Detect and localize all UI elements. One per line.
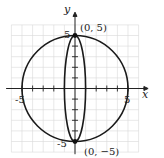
graph-plot: y x -5 5 5 -5 (0, 5) (0, −5) — [0, 0, 164, 158]
x-tick-label-neg5: -5 — [15, 94, 25, 105]
y-tick-label-5: 5 — [64, 29, 70, 40]
x-axis-label: x — [142, 88, 149, 101]
y-tick-label-neg5: -5 — [57, 138, 67, 149]
x-tick-label-5: 5 — [124, 94, 130, 105]
point-marker — [73, 33, 78, 38]
y-axis-label: y — [63, 3, 71, 16]
point-label-bottom: (0, −5) — [84, 146, 119, 157]
y-axis-arrow — [73, 12, 77, 16]
point-marker — [73, 139, 78, 144]
point-label-top: (0, 5) — [80, 22, 107, 33]
axes — [6, 12, 148, 154]
